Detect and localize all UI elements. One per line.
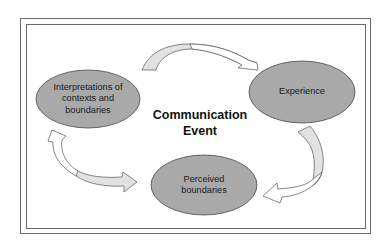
diagram-title: Communication Event (140, 108, 260, 139)
arrow-experience-to-perceived (263, 126, 323, 203)
arrow-perceived-to-interpretations (48, 130, 137, 192)
node-perceived-label: Perceived boundaries (154, 157, 254, 213)
arrow-interpretations-to-experience (142, 44, 258, 70)
node-experience-label: Experience (252, 64, 352, 120)
node-interpretations-label: Interpretations of contexts and boundari… (40, 72, 136, 126)
